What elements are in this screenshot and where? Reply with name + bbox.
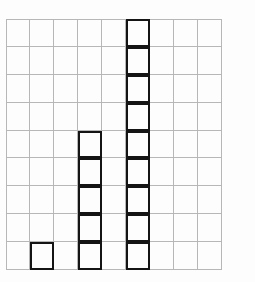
- empty-slot: [102, 131, 126, 159]
- block-bars-layer: [6, 19, 222, 270]
- empty-slot: [54, 214, 78, 242]
- empty-slot: [6, 214, 30, 242]
- empty-slot: [198, 158, 222, 186]
- empty-slot: [54, 158, 78, 186]
- empty-slot: [198, 75, 222, 103]
- empty-slot: [150, 186, 174, 214]
- bar-block: [126, 214, 150, 242]
- empty-slot: [30, 19, 54, 47]
- empty-slot: [78, 19, 102, 47]
- empty-slot: [102, 242, 126, 270]
- empty-slot: [174, 47, 198, 75]
- bar-block: [126, 19, 150, 47]
- empty-slot: [198, 19, 222, 47]
- empty-slot: [30, 47, 54, 75]
- empty-slot: [78, 75, 102, 103]
- empty-slot: [174, 242, 198, 270]
- empty-slot: [102, 186, 126, 214]
- empty-slot: [174, 214, 198, 242]
- bar-block: [126, 131, 150, 159]
- empty-slot: [174, 186, 198, 214]
- empty-slot: [174, 103, 198, 131]
- empty-slot: [150, 47, 174, 75]
- empty-slot: [30, 75, 54, 103]
- empty-slot: [54, 131, 78, 159]
- empty-slot: [174, 158, 198, 186]
- bar-block: [126, 242, 150, 270]
- bar-block: [78, 131, 102, 159]
- bar-block: [126, 186, 150, 214]
- bar-block: [126, 158, 150, 186]
- empty-slot: [30, 158, 54, 186]
- bar-block: [78, 186, 102, 214]
- bar-block: [126, 75, 150, 103]
- empty-slot: [198, 186, 222, 214]
- empty-slot: [102, 103, 126, 131]
- empty-slot: [30, 131, 54, 159]
- empty-slot: [54, 242, 78, 270]
- empty-slot: [198, 214, 222, 242]
- bar-block: [78, 158, 102, 186]
- empty-slot: [54, 186, 78, 214]
- empty-slot: [174, 131, 198, 159]
- empty-slot: [30, 214, 54, 242]
- empty-slot: [102, 19, 126, 47]
- empty-slot: [174, 75, 198, 103]
- empty-slot: [150, 19, 174, 47]
- empty-slot: [198, 47, 222, 75]
- empty-slot: [150, 158, 174, 186]
- empty-slot: [150, 242, 174, 270]
- empty-slot: [30, 186, 54, 214]
- empty-slot: [150, 131, 174, 159]
- empty-slot: [102, 214, 126, 242]
- empty-slot: [102, 158, 126, 186]
- grid-area: [6, 19, 222, 270]
- empty-slot: [54, 103, 78, 131]
- bar-block: [30, 242, 54, 270]
- empty-slot: [198, 103, 222, 131]
- empty-slot: [54, 19, 78, 47]
- bar-block: [126, 103, 150, 131]
- empty-slot: [6, 158, 30, 186]
- empty-slot: [6, 131, 30, 159]
- empty-slot: [198, 242, 222, 270]
- empty-slot: [198, 131, 222, 159]
- empty-slot: [78, 47, 102, 75]
- empty-slot: [174, 19, 198, 47]
- empty-slot: [6, 47, 30, 75]
- bar-block: [126, 47, 150, 75]
- bar-block: [78, 242, 102, 270]
- empty-slot: [102, 75, 126, 103]
- empty-slot: [54, 75, 78, 103]
- empty-slot: [102, 47, 126, 75]
- empty-slot: [6, 75, 30, 103]
- empty-slot: [150, 103, 174, 131]
- empty-slot: [6, 103, 30, 131]
- empty-slot: [6, 242, 30, 270]
- empty-slot: [6, 19, 30, 47]
- empty-slot: [78, 103, 102, 131]
- chart-canvas: [0, 0, 255, 282]
- empty-slot: [54, 47, 78, 75]
- bar-block: [78, 214, 102, 242]
- empty-slot: [150, 214, 174, 242]
- empty-slot: [150, 75, 174, 103]
- empty-slot: [6, 186, 30, 214]
- empty-slot: [30, 103, 54, 131]
